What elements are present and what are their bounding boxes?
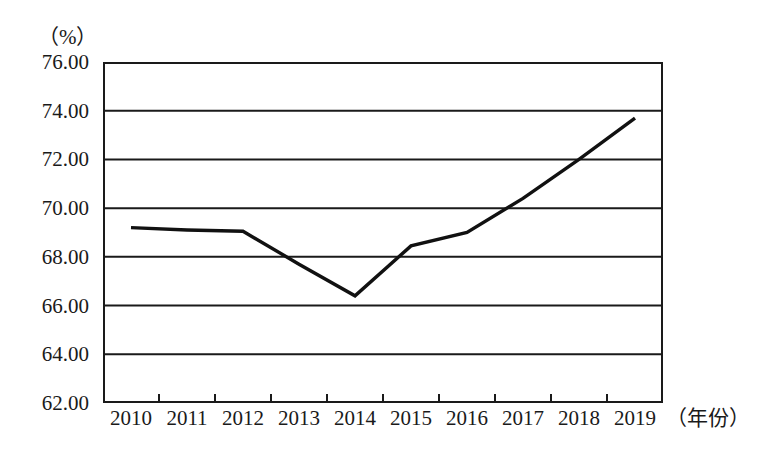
y-tick-label: 62.00 (42, 393, 89, 414)
y-axis-tick-labels: 76.0074.0072.0070.0068.0066.0064.0062.00 (0, 62, 97, 403)
y-axis-unit-label: （%） (38, 20, 98, 50)
x-tick-label: 2013 (278, 408, 320, 429)
y-tick-label: 68.00 (42, 246, 89, 267)
line-chart: （%） 76.0074.0072.0070.0068.0066.0064.006… (0, 0, 765, 456)
x-tick-label: 2011 (166, 408, 207, 429)
gridlines-group (103, 111, 663, 355)
x-tick-label: 2017 (502, 408, 544, 429)
x-tick-label: 2019 (614, 408, 656, 429)
y-tick-label: 66.00 (42, 295, 89, 316)
y-tick-label: 70.00 (42, 198, 89, 219)
x-tick-label: 2015 (390, 408, 432, 429)
x-tick-label: 2010 (110, 408, 152, 429)
y-tick-label: 64.00 (42, 344, 89, 365)
x-axis-title: （年份） (666, 408, 750, 429)
y-tick-label: 76.00 (42, 52, 89, 73)
y-tick-label: 74.00 (42, 100, 89, 121)
x-tick-label: 2016 (446, 408, 488, 429)
x-axis-ticks-group (159, 394, 607, 403)
x-tick-label: 2014 (334, 408, 376, 429)
x-tick-label: 2012 (222, 408, 264, 429)
data-series-line (131, 118, 635, 296)
plot-canvas (103, 62, 663, 403)
y-tick-label: 72.00 (42, 149, 89, 170)
x-tick-label: 2018 (558, 408, 600, 429)
x-axis-tick-labels: 2010201120122013201420152016201720182019 (103, 408, 663, 438)
